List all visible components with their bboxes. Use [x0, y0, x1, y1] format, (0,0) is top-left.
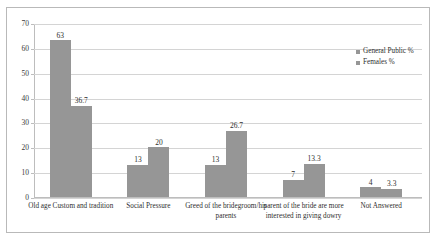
gridline	[34, 198, 422, 199]
bar[interactable]: 36.7	[71, 106, 92, 197]
y-axis-tick-mark	[31, 198, 34, 199]
bar[interactable]: 63	[50, 40, 71, 197]
y-axis-tick-label: 50	[22, 70, 30, 78]
bar-group: 1320Social Pressure	[127, 23, 169, 197]
bar-group: 1326.7Greed of the bridegroom/his parent…	[205, 23, 247, 197]
bar-group: 713.3parent of the bride are more intere…	[283, 23, 325, 197]
y-axis-tick-mark	[31, 148, 34, 149]
bar-value-label: 7	[291, 171, 295, 179]
y-axis-tick-mark	[31, 123, 34, 124]
category-label: parent of the bride are more interested …	[261, 202, 347, 221]
category-label: Old age Custom and tradition	[28, 202, 114, 212]
category-label: Not Answered	[338, 202, 424, 212]
y-axis-tick-label: 40	[22, 95, 30, 103]
y-axis-tick-mark	[31, 74, 34, 75]
bar[interactable]: 7	[283, 180, 304, 197]
bar[interactable]: 26.7	[226, 131, 247, 197]
y-axis-tick-label: 60	[22, 45, 30, 53]
value-axis-line	[34, 24, 35, 198]
legend-item[interactable]: Females %	[356, 57, 414, 68]
bar[interactable]: 13.3	[304, 164, 325, 197]
bar[interactable]: 13	[127, 165, 148, 197]
y-axis-tick-label: 70	[22, 20, 30, 28]
y-axis-tick-label: 0	[25, 194, 29, 202]
y-axis-tick-label: 30	[22, 120, 30, 128]
legend-label: Females %	[363, 57, 395, 68]
bar[interactable]: 13	[205, 165, 226, 197]
bar-value-label: 20	[155, 139, 163, 147]
category-label: Social Pressure	[105, 202, 191, 212]
legend-swatch-icon	[356, 61, 360, 65]
chart-frame: 010203040506070 6336.7Old age Custom and…	[6, 7, 430, 233]
bar-value-label: 13	[134, 156, 142, 164]
y-axis-tick-label: 20	[22, 145, 30, 153]
legend-swatch-icon	[356, 50, 360, 54]
legend-item[interactable]: General Public %	[356, 46, 414, 57]
bar-value-label: 26.7	[230, 122, 243, 130]
legend-label: General Public %	[363, 46, 414, 57]
y-axis-tick-mark	[31, 24, 34, 25]
bar[interactable]: 3.3	[381, 189, 402, 197]
y-axis-tick-label: 10	[22, 169, 30, 177]
bar-value-label: 3.3	[387, 180, 396, 188]
bar-value-label: 13	[212, 156, 220, 164]
bar[interactable]: 20	[148, 147, 169, 197]
chart-legend: General Public %Females %	[356, 46, 414, 68]
y-axis-tick-mark	[31, 99, 34, 100]
bar-value-label: 36.7	[75, 97, 88, 105]
bar[interactable]: 4	[360, 187, 381, 197]
category-label: Greed of the bridegroom/his parents	[183, 202, 269, 221]
bar-group: 6336.7Old age Custom and tradition	[50, 23, 92, 197]
bar-value-label: 13.3	[308, 155, 321, 163]
y-axis-tick-mark	[31, 173, 34, 174]
bar-value-label: 4	[369, 179, 373, 187]
bar-value-label: 63	[57, 32, 65, 40]
y-axis-tick-mark	[31, 49, 34, 50]
